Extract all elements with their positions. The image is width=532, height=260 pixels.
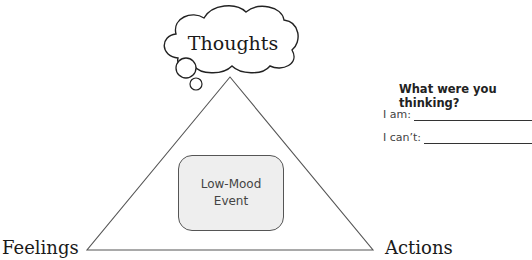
prompt-i-am-row: I am: — [383, 108, 532, 121]
worksheet-question: What were you thinking? — [399, 82, 532, 110]
thought-bubble-medium-icon — [176, 58, 196, 78]
feelings-label: Feelings — [2, 237, 79, 258]
prompt-i-cant-row: I can’t: — [383, 131, 532, 144]
thoughts-label: Thoughts — [188, 32, 278, 54]
answer-blank-i-cant[interactable] — [424, 133, 532, 144]
prompt-label: I am: — [383, 108, 411, 121]
actions-label: Actions — [384, 237, 453, 258]
thought-bubble-small-icon — [190, 78, 202, 90]
event-line-2: Event — [214, 193, 248, 210]
prompt-label: I can’t: — [383, 131, 421, 144]
event-line-1: Low-Mood — [201, 176, 262, 193]
low-mood-event-box: Low-Mood Event — [178, 155, 284, 231]
answer-blank-i-am[interactable] — [414, 110, 532, 121]
